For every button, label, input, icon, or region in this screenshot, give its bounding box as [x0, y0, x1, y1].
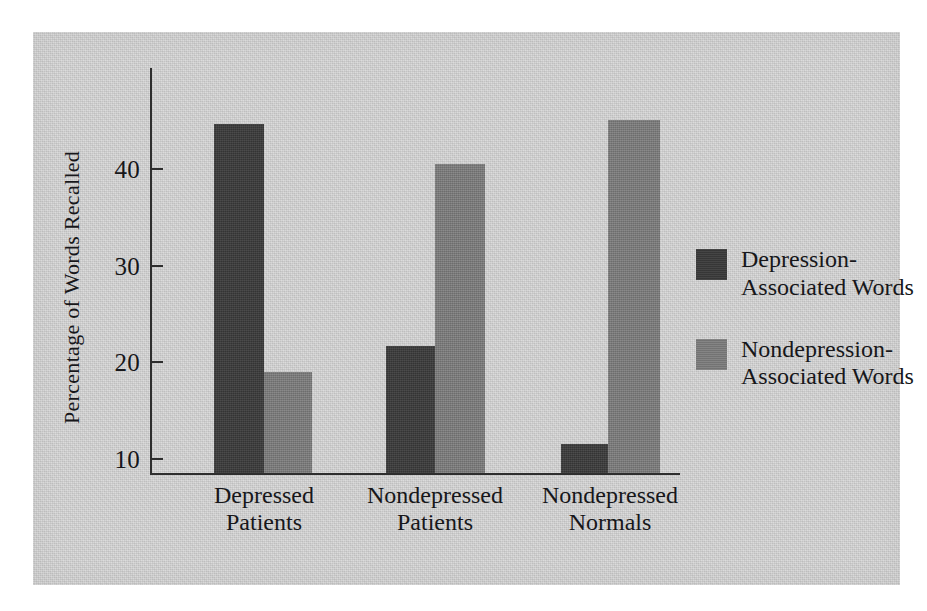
y-tick-20: 20	[152, 361, 163, 363]
category-label-line2: Patients	[226, 509, 302, 535]
bar-nondepressed-normals-nondepression-words	[608, 120, 660, 473]
legend-entry-nondepression-associated-words: Nondepression- Associated Words	[696, 336, 927, 392]
category-label-nondepressed-normals: Nondepressed Normals	[510, 482, 710, 536]
figure-root: Percentage of Words Recalled 40 30 20 10…	[0, 0, 927, 611]
category-label-nondepressed-patients: Nondepressed Patients	[335, 482, 535, 536]
y-tick-10: 10	[152, 458, 163, 460]
legend-label-line2: Associated Words	[741, 363, 914, 391]
bar-depressed-patients-nondepression-words	[264, 372, 312, 473]
y-tick-label-20: 20	[115, 349, 140, 377]
y-tick-30: 30	[152, 265, 163, 267]
y-axis-title: Percentage of Words Recalled	[59, 64, 85, 424]
category-label-depressed-patients: Depressed Patients	[164, 482, 364, 536]
legend-swatch-dark-icon	[696, 249, 727, 280]
legend-label-line1: Nondepression-	[741, 336, 914, 364]
bar-nondepressed-patients-nondepression-words	[435, 164, 485, 473]
category-label-line1: Nondepressed	[542, 482, 678, 508]
category-label-line2: Patients	[397, 509, 473, 535]
legend-label-nondepression-associated-words: Nondepression- Associated Words	[741, 336, 914, 392]
chart-panel: Percentage of Words Recalled 40 30 20 10…	[33, 32, 900, 585]
y-tick-40: 40	[152, 168, 163, 170]
x-axis-line	[150, 473, 680, 475]
category-label-line1: Nondepressed	[367, 482, 503, 508]
y-tick-label-10: 10	[115, 446, 140, 474]
bar-nondepressed-patients-depression-words	[386, 346, 435, 473]
y-tick-label-40: 40	[115, 156, 140, 184]
legend-label-line2: Associated Words	[741, 274, 914, 302]
category-label-line2: Normals	[569, 509, 652, 535]
chart-legend: Depression- Associated Words Nondepressi…	[696, 246, 927, 425]
category-label-line1: Depressed	[214, 482, 314, 508]
legend-label-line1: Depression-	[741, 246, 914, 274]
legend-label-depression-associated-words: Depression- Associated Words	[741, 246, 914, 302]
legend-entry-depression-associated-words: Depression- Associated Words	[696, 246, 927, 302]
y-tick-label-30: 30	[115, 253, 140, 281]
plot-area: 40 30 20 10 Depressed Patients Nonde	[150, 68, 680, 475]
y-axis-line	[150, 68, 152, 475]
legend-swatch-light-icon	[696, 339, 727, 370]
bar-nondepressed-normals-depression-words	[561, 444, 608, 473]
bar-depressed-patients-depression-words	[214, 124, 264, 473]
